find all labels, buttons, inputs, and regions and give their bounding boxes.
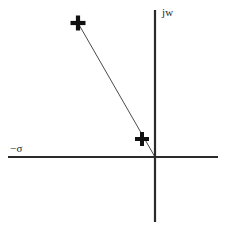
plot-canvas	[0, 0, 228, 235]
real-axis-label: −σ	[10, 143, 23, 154]
s-plane-pole-plot-figure: −σ jw	[0, 0, 228, 235]
imaginary-axis-label: jw	[162, 7, 174, 18]
pole-marker-upper	[71, 16, 86, 31]
